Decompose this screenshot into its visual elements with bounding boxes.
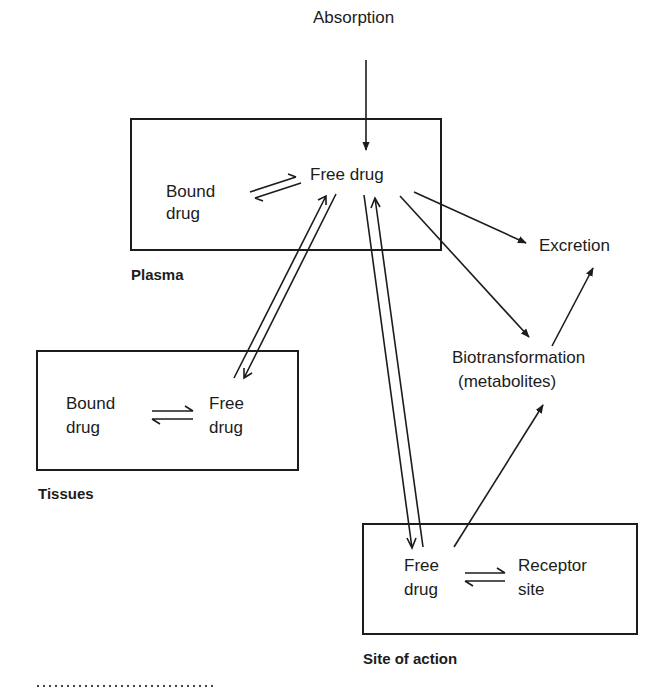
site-free-drug-line2: drug bbox=[404, 579, 438, 601]
to-biotransformation-arrow bbox=[400, 196, 529, 337]
tissues-bound-drug-line2: drug bbox=[66, 417, 100, 439]
site-to-biotransformation-arrow bbox=[454, 405, 543, 547]
metabolites-label: (metabolites) bbox=[458, 371, 556, 393]
receptor-site-line1: Receptor bbox=[518, 555, 587, 577]
tissues-equilibrium-arrows bbox=[152, 406, 193, 424]
plasma-equilibrium-arrows bbox=[250, 174, 301, 201]
site-of-action-label: Site of action bbox=[363, 648, 457, 670]
plasma-bound-drug-line2: drug bbox=[166, 203, 200, 225]
to-excretion-arrow bbox=[414, 192, 526, 243]
excretion-label: Excretion bbox=[539, 235, 610, 257]
site-free-drug-line1: Free bbox=[404, 555, 439, 577]
site-equilibrium-arrows bbox=[465, 568, 505, 586]
plasma-site-arrows bbox=[364, 195, 423, 548]
plasma-label: Plasma bbox=[131, 264, 184, 286]
absorption-label: Absorption bbox=[313, 7, 394, 29]
plasma-free-drug-label: Free drug bbox=[310, 164, 384, 186]
receptor-site-line2: site bbox=[518, 579, 544, 601]
tissues-bound-drug-line1: Bound bbox=[66, 393, 115, 415]
tissues-label: Tissues bbox=[38, 483, 94, 505]
metabolites-to-excretion-arrow bbox=[552, 268, 593, 346]
plasma-bound-drug-line1: Bound bbox=[166, 181, 215, 203]
tissues-free-drug-line1: Free bbox=[209, 393, 244, 415]
tissues-free-drug-line2: drug bbox=[209, 417, 243, 439]
biotransformation-label: Biotransformation bbox=[452, 347, 585, 369]
